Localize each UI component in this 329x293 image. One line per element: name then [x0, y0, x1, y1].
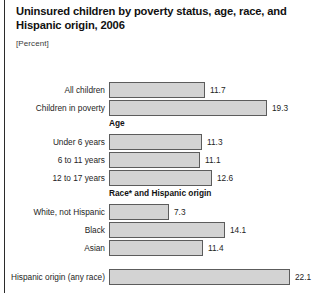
bar-fill: [109, 204, 169, 220]
bar-value-label: 11.1: [200, 155, 221, 165]
bar-value-label: 11.4: [203, 243, 224, 253]
category-label: 6 to 11 years: [58, 155, 108, 165]
bar-row: Under 6 years11.3: [0, 133, 329, 151]
chart-figure: Uninsured children by poverty status, ag…: [0, 0, 329, 293]
group-header: Race* and Hispanic origin: [109, 188, 211, 198]
bar-fill: [109, 269, 290, 285]
bar-value-label: 7.3: [169, 207, 186, 217]
bar: [109, 82, 205, 98]
bar-row: 12 to 17 years12.6: [0, 169, 329, 187]
bar: [109, 152, 200, 168]
bar: [109, 204, 169, 220]
group-header: Age: [109, 118, 125, 128]
category-label: All children: [64, 85, 108, 95]
category-label: Asian: [84, 243, 108, 253]
bar-fill: [109, 82, 205, 98]
bar-fill: [109, 170, 212, 186]
bar-fill: [109, 222, 225, 238]
bar-fill: [109, 100, 267, 116]
category-label: Black: [85, 225, 108, 235]
chart-units-note: [Percent]: [16, 39, 316, 48]
bar-value-label: 19.3: [267, 103, 288, 113]
bar-row: All children11.7: [0, 81, 329, 99]
chart-plot-area: AgeRace* and Hispanic originAll children…: [0, 78, 329, 290]
category-label: Under 6 years: [53, 137, 108, 147]
bar-value-label: 12.6: [212, 173, 233, 183]
bar-fill: [109, 152, 200, 168]
bar: [109, 269, 290, 285]
category-label: White, not Hispanic: [34, 207, 108, 217]
bar-row: White, not Hispanic7.3: [0, 203, 329, 221]
bar-row: Hispanic origin (any race)22.1: [0, 268, 329, 286]
bar-row: Asian11.4: [0, 239, 329, 257]
chart-header: Uninsured children by poverty status, ag…: [16, 5, 316, 48]
bar-row: Black14.1: [0, 221, 329, 239]
bar-row: Children in poverty19.3: [0, 99, 329, 117]
bar: [109, 222, 225, 238]
bar-fill: [109, 134, 202, 150]
category-label: Children in poverty: [36, 103, 108, 113]
category-label: Hispanic origin (any race): [11, 272, 108, 282]
bar: [109, 100, 267, 116]
bar-row: 6 to 11 years11.1: [0, 151, 329, 169]
bar: [109, 134, 202, 150]
category-label: 12 to 17 years: [52, 173, 108, 183]
bar: [109, 240, 203, 256]
bar: [109, 170, 212, 186]
bar-value-label: 11.7: [205, 85, 226, 95]
page-title: Uninsured children by poverty status, ag…: [16, 5, 316, 32]
bar-value-label: 22.1: [290, 272, 311, 282]
bar-value-label: 11.3: [202, 137, 223, 147]
bar-fill: [109, 240, 203, 256]
bar-value-label: 14.1: [225, 225, 246, 235]
